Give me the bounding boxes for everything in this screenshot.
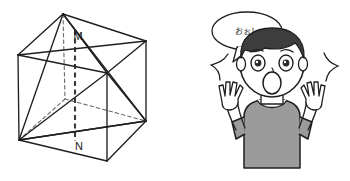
hand-right-palm [301, 82, 325, 110]
diagonal-bottomleft-bottomright-2 [19, 121, 146, 140]
shirt-body [244, 99, 300, 168]
motion-line-right-zigzag [324, 53, 338, 81]
character-svg: おぉ！ [175, 0, 350, 181]
pupil-left [255, 60, 262, 67]
head [237, 28, 308, 97]
edge-backtopleft-fronttopright [18, 55, 107, 73]
mouth-open [263, 72, 281, 94]
hand-right [301, 82, 325, 110]
hand-left-palm [219, 82, 243, 110]
shirt-sleeve-right [299, 117, 312, 139]
ear-left [237, 57, 246, 71]
cube-diagram-panel: M N [0, 0, 175, 181]
torso [232, 99, 312, 168]
dashed-edge-apex-to-back-bottom [63, 14, 65, 99]
dashed-edge-back-bottom-right [65, 99, 146, 121]
hand-left [219, 82, 243, 110]
cube-diagram-svg: M N [0, 0, 175, 181]
ear-right [299, 57, 308, 71]
character-panel: おぉ！ [175, 0, 350, 181]
motion-lines-left [211, 54, 228, 80]
eye-highlight-left [256, 61, 258, 63]
diagonal-backtopleft-topright [18, 41, 146, 55]
vertex-label-N: N [75, 140, 83, 152]
edge-frontbottom-bottomright [107, 121, 146, 161]
illustration-root: M N おぉ！ [0, 0, 350, 181]
eye-highlight-right [284, 61, 286, 63]
shirt-sleeve-left [232, 117, 245, 139]
edge-vertical-left [18, 55, 19, 140]
edge-bottomleft-frontbottom [19, 140, 107, 161]
diagonal-fronttopright-bottomright [107, 73, 146, 121]
motion-line-left-zigzag [211, 54, 228, 80]
pupil-right [283, 60, 290, 67]
vertex-label-M: M [73, 30, 82, 42]
edge-fronttopright-topright [107, 41, 146, 73]
motion-lines-right [324, 53, 338, 81]
diagonal-apex-fronttopright [63, 14, 107, 73]
